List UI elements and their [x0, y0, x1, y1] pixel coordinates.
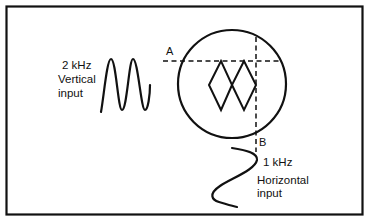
horizontal-frequency-label: 1 kHz — [263, 156, 293, 168]
vertical-input-label-line1: Vertical — [58, 73, 96, 85]
horizontal-input-label-line1: Horizontal — [257, 174, 309, 186]
vertical-input-label-line2: input — [58, 87, 84, 99]
marker-b-label: B — [259, 136, 266, 148]
vertical-frequency-label: 2 kHz — [62, 59, 92, 71]
lissajous-diagram: 2 kHz Vertical input A B 1 kHz Horizonta… — [0, 0, 367, 221]
horizontal-input-sine-wave-icon — [212, 148, 257, 207]
lissajous-figure-eight — [209, 61, 256, 110]
vertical-input-sine-wave-icon — [101, 59, 150, 112]
marker-a-label: A — [166, 45, 174, 57]
horizontal-input-label-line2: input — [257, 187, 283, 199]
